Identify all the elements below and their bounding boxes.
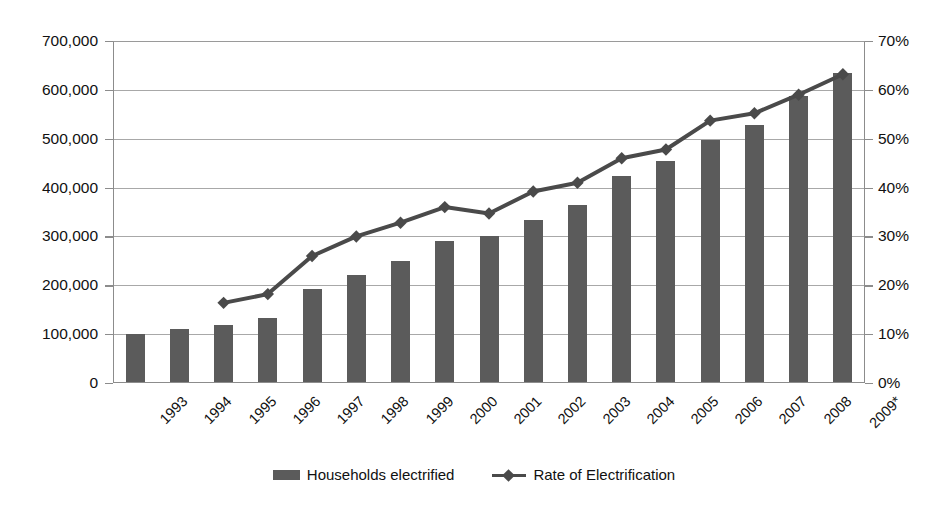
y-tick-label-left: 200,000 <box>0 276 98 294</box>
y-tick-label-right: 10% <box>878 325 948 343</box>
y-tick-label-right: 30% <box>878 227 948 245</box>
x-tick-label: 2002 <box>555 393 589 427</box>
y-tick-label-left: 400,000 <box>0 179 98 197</box>
line-marker-diamond <box>350 230 362 242</box>
line-series <box>113 41 865 383</box>
y-tick-label-left: 700,000 <box>0 32 98 50</box>
y-tick-mark-left <box>105 188 113 189</box>
legend-item-rate[interactable]: Rate of Electrification <box>492 466 675 483</box>
bar-swatch-icon <box>273 470 300 480</box>
x-tick-label: 2009* <box>866 393 904 431</box>
y-tick-mark-left <box>105 334 113 335</box>
y-tick-mark-right <box>865 139 873 140</box>
y-tick-label-left: 600,000 <box>0 81 98 99</box>
x-tick-label: 2008 <box>820 393 854 427</box>
line-marker-diamond <box>748 107 760 119</box>
line-diamond-icon <box>492 469 526 481</box>
x-tick-label: 1999 <box>422 393 456 427</box>
x-tick-label: 2006 <box>732 393 766 427</box>
line-marker-diamond <box>792 89 804 101</box>
y-tick-label-right: 40% <box>878 179 948 197</box>
line-marker-diamond <box>394 217 406 229</box>
line-marker-diamond <box>217 297 229 309</box>
legend-label-rate: Rate of Electrification <box>533 466 675 483</box>
x-tick-label: 2005 <box>687 393 721 427</box>
y-tick-mark-left <box>105 236 113 237</box>
y-tick-label-right: 70% <box>878 32 948 50</box>
x-tick-label: 2004 <box>643 393 677 427</box>
y-tick-mark-right <box>865 285 873 286</box>
x-tick-label: 1996 <box>289 393 323 427</box>
x-tick-label: 1995 <box>245 393 279 427</box>
y-tick-mark-left <box>105 90 113 91</box>
y-tick-mark-left <box>105 41 113 42</box>
x-tick-label: 1994 <box>201 393 235 427</box>
legend-item-households[interactable]: Households electrified <box>273 466 455 483</box>
x-tick-label: 1998 <box>378 393 412 427</box>
y-tick-mark-left <box>105 285 113 286</box>
line-marker-diamond <box>439 201 451 213</box>
x-tick-label: 1997 <box>334 393 368 427</box>
y-tick-label-left: 100,000 <box>0 325 98 343</box>
legend-label-households: Households electrified <box>307 466 455 483</box>
y-tick-label-right: 50% <box>878 130 948 148</box>
y-tick-mark-right <box>865 90 873 91</box>
y-tick-mark-right <box>865 41 873 42</box>
y-tick-mark-right <box>865 188 873 189</box>
y-tick-label-left: 300,000 <box>0 227 98 245</box>
x-tick-label: 2003 <box>599 393 633 427</box>
y-tick-label-left: 0 <box>0 374 98 392</box>
x-tick-label: 2007 <box>776 393 810 427</box>
y-tick-label-right: 0% <box>878 374 948 392</box>
y-tick-mark-left <box>105 383 113 384</box>
x-axis-labels: 1993199419951996199719981999200020012002… <box>113 385 865 455</box>
y-tick-label-left: 500,000 <box>0 130 98 148</box>
plot-area <box>113 41 865 383</box>
y-tick-mark-right <box>865 383 873 384</box>
y-tick-label-right: 60% <box>878 81 948 99</box>
chart-container: 0100,000200,000300,000400,000500,000600,… <box>0 0 948 513</box>
chart-legend: Households electrified Rate of Electrifi… <box>0 466 948 483</box>
x-tick-label: 1993 <box>157 393 191 427</box>
y-tick-mark-right <box>865 334 873 335</box>
x-tick-label: 2001 <box>510 393 544 427</box>
y-tick-mark-right <box>865 236 873 237</box>
line-marker-diamond <box>837 68 849 80</box>
y-tick-mark-left <box>105 139 113 140</box>
x-tick-label: 2000 <box>466 393 500 427</box>
y-tick-label-right: 20% <box>878 276 948 294</box>
